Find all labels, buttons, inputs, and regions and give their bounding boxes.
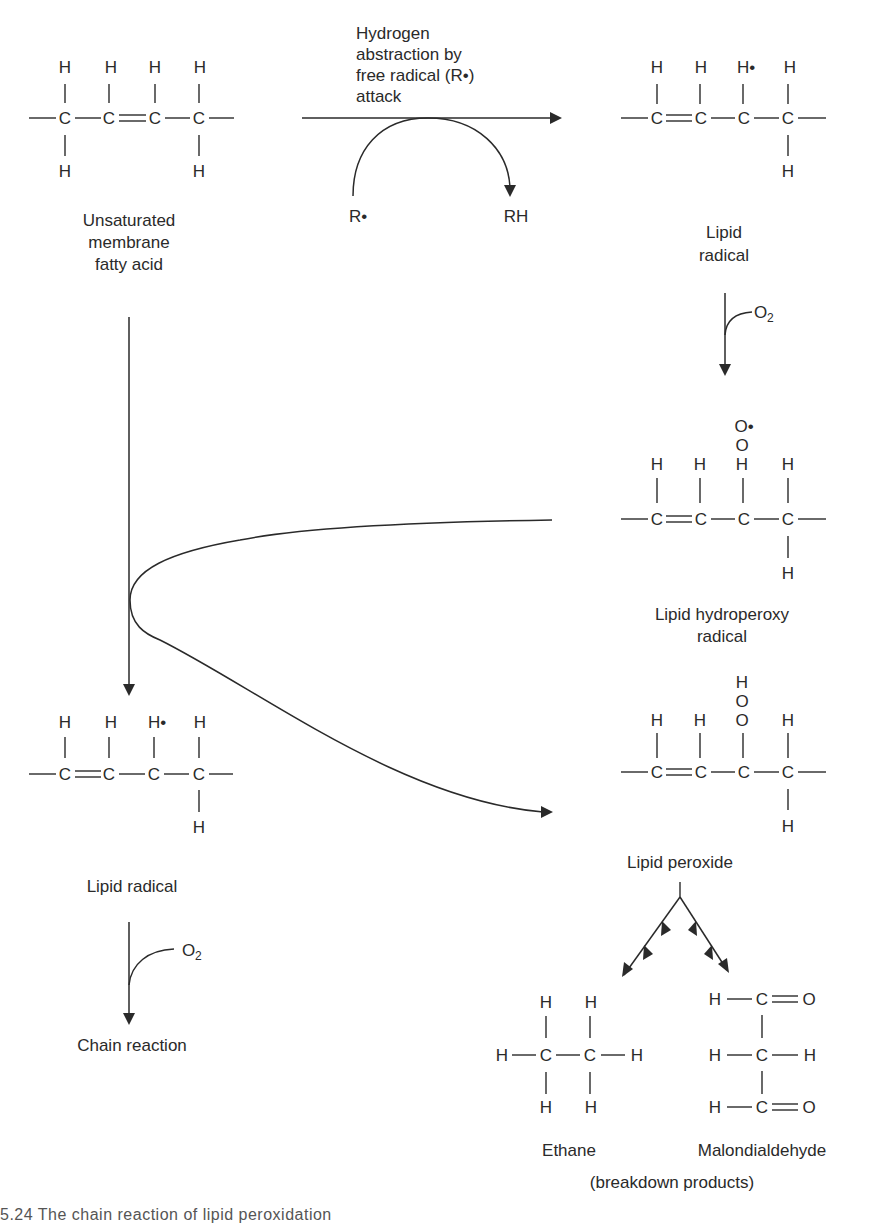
atom-h: H bbox=[59, 162, 71, 181]
arrow-head-icon bbox=[718, 958, 729, 973]
atom-c: C bbox=[651, 763, 663, 782]
atom-h: H bbox=[804, 1046, 816, 1065]
molecule-lipid-radical-bottom: H H H• H C C C C H Lipid radical bbox=[29, 713, 233, 896]
label-fatty-acid: fatty acid bbox=[95, 255, 163, 274]
atom-c: C bbox=[103, 765, 115, 784]
arrow-head-icon bbox=[504, 185, 516, 197]
atom-h: H bbox=[782, 162, 794, 181]
label-malondialdehyde: Malondialdehyde bbox=[698, 1141, 827, 1160]
molecule-lipid-radical-top: H H H• H C C C C H Lipid radical bbox=[621, 58, 826, 265]
atom-h: H bbox=[585, 993, 597, 1012]
label-r-radical: R• bbox=[349, 207, 367, 226]
atom-h: H bbox=[194, 58, 206, 77]
reaction-oxygen-addition-left: O 2 Chain reaction bbox=[77, 922, 202, 1055]
atom-h-radical: H• bbox=[737, 58, 755, 77]
molecule-lipid-peroxide: H O O H H H C C C C H Lipid peroxide bbox=[621, 673, 826, 872]
atom-c: C bbox=[738, 109, 750, 128]
label-chain-reaction: Chain reaction bbox=[77, 1036, 187, 1055]
label-radical: radical bbox=[699, 246, 749, 265]
atom-c: C bbox=[756, 1098, 768, 1117]
figure-caption: 5.24 The chain reaction of lipid peroxid… bbox=[0, 1206, 332, 1224]
atom-c: C bbox=[738, 510, 750, 529]
molecule-unsaturated-fatty-acid: H H H H C C C C H H Unsaturated membrane… bbox=[29, 58, 234, 274]
arrow-head-icon bbox=[719, 364, 731, 376]
label-rh: RH bbox=[504, 207, 529, 226]
atom-h: H bbox=[651, 711, 663, 730]
atom-h: H bbox=[782, 711, 794, 730]
atom-c: C bbox=[59, 765, 71, 784]
reaction-oxygen-addition-right: O 2 bbox=[719, 293, 774, 376]
atom-h: H bbox=[695, 58, 707, 77]
reaction-breakdown bbox=[622, 882, 729, 977]
atom-c: C bbox=[782, 510, 794, 529]
atom-h: H bbox=[59, 713, 71, 732]
curved-arrow bbox=[725, 312, 752, 335]
atom-c: C bbox=[756, 1046, 768, 1065]
atom-c: C bbox=[148, 765, 160, 784]
atom-h: H bbox=[149, 58, 161, 77]
atom-c: C bbox=[695, 763, 707, 782]
arrow-head-icon bbox=[123, 1013, 135, 1025]
molecule-malondialdehyde: H C O H C H H C O Malondialdehyde bbox=[698, 990, 827, 1160]
atom-o-radical: O• bbox=[734, 417, 753, 436]
label-lipid-peroxide: Lipid peroxide bbox=[627, 853, 733, 872]
atom-h: H bbox=[782, 564, 794, 583]
atom-h: H bbox=[193, 818, 205, 837]
arrow-head-icon bbox=[704, 945, 713, 960]
atom-c: C bbox=[193, 765, 205, 784]
arrow-head-icon bbox=[643, 945, 653, 960]
atom-c: C bbox=[695, 510, 707, 529]
atom-o: O bbox=[735, 436, 748, 455]
atom-h: H bbox=[694, 455, 706, 474]
atom-c: C bbox=[738, 763, 750, 782]
label-breakdown-products: (breakdown products) bbox=[590, 1173, 754, 1192]
atom-h: H bbox=[585, 1098, 597, 1117]
arrow-head-icon bbox=[688, 921, 697, 936]
curved-arrow bbox=[353, 118, 510, 196]
atom-h: H bbox=[709, 1098, 721, 1117]
atom-c: C bbox=[193, 109, 205, 128]
atom-c: C bbox=[782, 109, 794, 128]
reaction-hydrogen-abstraction: Hydrogen abstraction by free radical (R•… bbox=[302, 24, 562, 226]
atom-h: H bbox=[782, 455, 794, 474]
atom-h: H bbox=[105, 58, 117, 77]
atom-h: H bbox=[194, 713, 206, 732]
atom-c: C bbox=[59, 109, 71, 128]
abstraction-label-line: attack bbox=[356, 87, 402, 106]
atom-h: H bbox=[651, 455, 663, 474]
label-lipid: Lipid bbox=[706, 223, 742, 242]
arrow-head-icon bbox=[123, 684, 135, 696]
atom-h: H bbox=[193, 162, 205, 181]
abstraction-label-line: free radical (R•) bbox=[356, 66, 474, 85]
arrow-head-icon bbox=[550, 112, 562, 124]
atom-h: H bbox=[736, 455, 748, 474]
label-oxygen: O bbox=[182, 941, 195, 960]
atom-h: H bbox=[540, 1098, 552, 1117]
atom-h: H bbox=[784, 58, 796, 77]
atom-h: H bbox=[540, 993, 552, 1012]
atom-o: O bbox=[735, 692, 748, 711]
reaction-propagation bbox=[123, 317, 553, 818]
curved-arrow bbox=[129, 949, 174, 985]
atom-h: H bbox=[105, 713, 117, 732]
label-oxygen-subscript: 2 bbox=[195, 949, 202, 963]
label-ethane: Ethane bbox=[542, 1141, 596, 1160]
atom-c: C bbox=[540, 1046, 552, 1065]
atom-c: C bbox=[782, 763, 794, 782]
atom-h: H bbox=[694, 711, 706, 730]
atom-h: H bbox=[59, 58, 71, 77]
arrow-head-icon bbox=[541, 806, 553, 818]
atom-o: O bbox=[802, 990, 815, 1009]
abstraction-label-line: Hydrogen bbox=[356, 24, 430, 43]
atom-h: H bbox=[651, 58, 663, 77]
atom-h: H bbox=[782, 817, 794, 836]
label-radical: radical bbox=[697, 627, 747, 646]
label-lipid-hydroperoxy: Lipid hydroperoxy bbox=[655, 605, 790, 624]
atom-c: C bbox=[584, 1046, 596, 1065]
label-lipid-radical: Lipid radical bbox=[87, 877, 178, 896]
molecule-lipid-hydroperoxy-radical: O• O H H H H C C C C H Lipid hydroperoxy… bbox=[621, 417, 826, 646]
label-oxygen-subscript: 2 bbox=[767, 311, 774, 325]
atom-c: C bbox=[651, 510, 663, 529]
label-membrane: membrane bbox=[88, 233, 169, 252]
